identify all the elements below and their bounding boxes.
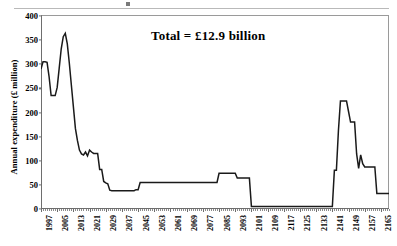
x-minor-tick (160, 209, 161, 212)
x-minor-tick (371, 209, 372, 212)
x-minor-tick (288, 209, 289, 212)
x-minor-tick (183, 209, 184, 212)
x-minor-tick (195, 209, 196, 212)
x-tick-label: 2109 (271, 215, 280, 231)
x-minor-tick (152, 209, 153, 212)
x-minor-tick (227, 209, 228, 212)
x-minor-tick (112, 209, 113, 212)
x-minor-tick (207, 209, 208, 212)
x-minor-tick (158, 209, 159, 212)
x-minor-tick (243, 209, 244, 212)
x-minor-tick (266, 209, 267, 212)
x-minor-tick (179, 209, 180, 212)
x-minor-tick (229, 209, 230, 212)
x-tick-label: 2085 (223, 215, 232, 231)
x-minor-tick (193, 209, 194, 212)
x-minor-tick (43, 209, 44, 212)
x-minor-tick (201, 209, 202, 212)
x-minor-tick (49, 209, 50, 212)
x-minor-tick (55, 209, 56, 212)
x-tick-label: 2061 (174, 215, 183, 231)
x-minor-tick (278, 209, 279, 212)
x-minor-tick (383, 209, 384, 212)
x-minor-tick (322, 209, 323, 212)
x-minor-tick (100, 209, 101, 212)
x-tick-label: 2029 (109, 215, 118, 231)
x-minor-tick (132, 209, 133, 212)
x-tick-label: 2149 (352, 215, 361, 231)
x-minor-tick (247, 209, 248, 212)
x-minor-tick (199, 209, 200, 212)
x-minor-tick (130, 209, 131, 212)
x-minor-tick (142, 209, 143, 212)
x-minor-tick (67, 209, 68, 212)
x-minor-tick (124, 209, 125, 212)
x-minor-tick (108, 209, 109, 212)
x-minor-tick (377, 209, 378, 212)
x-tick-mark (219, 209, 220, 213)
x-minor-tick (255, 209, 256, 212)
x-tick-mark (332, 209, 333, 213)
x-minor-tick (274, 209, 275, 212)
x-tick-label: 2045 (142, 215, 151, 231)
x-minor-tick (211, 209, 212, 212)
x-minor-tick (168, 209, 169, 212)
x-minor-tick (223, 209, 224, 212)
x-minor-tick (385, 209, 386, 212)
x-tick-label: 2157 (368, 215, 377, 231)
x-minor-tick (146, 209, 147, 212)
x-minor-tick (314, 209, 315, 212)
x-minor-tick (326, 209, 327, 212)
x-minor-tick (241, 209, 242, 212)
x-minor-tick (110, 209, 111, 212)
x-minor-tick (357, 209, 358, 212)
x-minor-tick (177, 209, 178, 212)
x-minor-tick (280, 209, 281, 212)
x-minor-tick (306, 209, 307, 212)
x-minor-tick (225, 209, 226, 212)
x-minor-tick (389, 209, 390, 212)
series-path (41, 33, 389, 206)
x-minor-tick (92, 209, 93, 212)
x-minor-tick (375, 209, 376, 212)
x-minor-tick (253, 209, 254, 212)
x-minor-tick (367, 209, 368, 212)
x-minor-tick (162, 209, 163, 212)
x-minor-tick (69, 209, 70, 212)
x-minor-tick (86, 209, 87, 212)
x-minor-tick (79, 209, 80, 212)
x-minor-tick (104, 209, 105, 212)
x-minor-tick (318, 209, 319, 212)
x-minor-tick (282, 209, 283, 212)
x-minor-tick (276, 209, 277, 212)
x-tick-mark (106, 209, 107, 213)
x-minor-tick (304, 209, 305, 212)
x-minor-tick (126, 209, 127, 212)
x-minor-tick (310, 209, 311, 212)
x-minor-tick (324, 209, 325, 212)
top-divider-rule (14, 8, 389, 9)
x-minor-tick (361, 209, 362, 212)
cropped-artifact (126, 2, 130, 6)
x-minor-tick (53, 209, 54, 212)
x-minor-tick (308, 209, 309, 212)
x-minor-tick (59, 209, 60, 212)
x-minor-tick (340, 209, 341, 212)
x-tick-label: 2141 (336, 215, 345, 231)
x-tick-mark (349, 209, 350, 213)
x-minor-tick (45, 209, 46, 212)
x-minor-tick (334, 209, 335, 212)
x-minor-tick (213, 209, 214, 212)
x-minor-tick (264, 209, 265, 212)
x-minor-tick (320, 209, 321, 212)
x-minor-tick (272, 209, 273, 212)
x-minor-tick (156, 209, 157, 212)
x-tick-mark (268, 209, 269, 213)
x-minor-tick (344, 209, 345, 212)
x-minor-tick (205, 209, 206, 212)
x-tick-label: 2077 (206, 215, 215, 231)
x-minor-tick (217, 209, 218, 212)
x-minor-tick (209, 209, 210, 212)
x-minor-tick (120, 209, 121, 212)
x-tick-mark (235, 209, 236, 213)
